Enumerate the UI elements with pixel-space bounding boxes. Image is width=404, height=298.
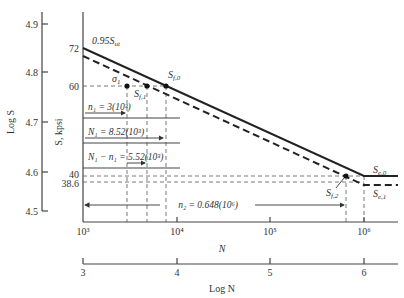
point-sigma1 [124,83,129,88]
log-s-axis: 4.9 4.8 4.7 4.6 4.5 Log S [5,12,48,217]
x-axis-label: N [218,243,227,254]
log-s-tick-4.5: 4.5 [26,206,39,217]
point-sf0 [163,83,168,88]
x-tick-1e6: 10⁶ [357,226,371,237]
y-axis-label: S, kpsi [53,118,64,145]
y-tick-38.6: 38.6 [62,178,80,189]
point-sf2 [343,173,348,178]
point-sf1 [144,83,149,88]
N1-label: N₁ = 8.52(10³) [87,127,144,138]
cycle-annotations: n₁ = 3(10³) N₁ = 8.52(10³) N₁ − n₁ = 5.5… [83,102,344,211]
log-n-tick-4: 4 [175,267,180,278]
log-s-tick-4.7: 4.7 [26,117,39,128]
log-n-axis: 3 4 5 6 Log N [81,258,399,294]
y-tick-60: 60 [69,81,79,92]
N1-minus-n1-label: N₁ − n₁ = 5.52(10³) [87,152,163,163]
sn-damage-diagram: 4.9 4.8 4.7 4.6 4.5 Log S S, kpsi 72 60 … [0,0,404,298]
y-tick-72: 72 [69,43,79,54]
n2-label: n₂ = 0.648(10⁶) [178,200,238,211]
label-se1: Se,1 [373,188,386,201]
log-s-tick-4.8: 4.8 [26,67,39,78]
label-sigma1: σ1 [112,73,120,86]
plot-frame [83,12,398,222]
log-n-tick-6: 6 [362,267,367,278]
sf2-pointer [336,178,344,188]
log-n-label: Log N [209,283,235,294]
label-sf0: Sf,0 [168,69,181,82]
log-n-tick-3: 3 [81,267,86,278]
n1-label: n₁ = 3(10³) [88,102,131,113]
label-sf1: Sf,1 [134,88,146,101]
x-tick-1e3: 10³ [77,226,90,237]
x-tick-1e4: 10⁴ [170,226,184,237]
log-n-tick-5: 5 [268,267,273,278]
log-s-label: Log S [5,110,16,134]
log-s-tick-4.6: 4.6 [26,167,39,178]
x-tick-1e5: 10⁵ [263,226,277,237]
log-s-tick-4.9: 4.9 [26,19,39,30]
label-sf2: Sf,2 [326,187,339,200]
label-0.95sut: 0.95Sut [92,35,121,48]
